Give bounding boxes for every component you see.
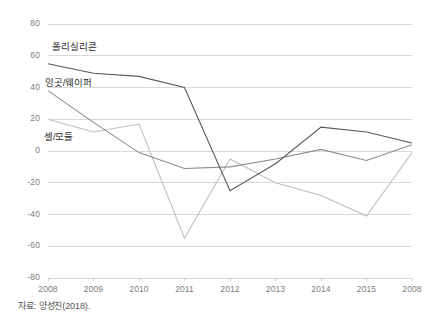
y-tick-label: 20 bbox=[14, 113, 40, 123]
series-line-1 bbox=[48, 64, 412, 191]
x-tick-label: 2014 bbox=[301, 284, 341, 294]
y-tick-label: 80 bbox=[14, 18, 40, 28]
x-tick-label: 2010 bbox=[119, 284, 159, 294]
series-line-3 bbox=[48, 119, 412, 238]
plot-area: 806040200-20-40-60-80 200820092010201120… bbox=[0, 0, 427, 292]
x-tick-label: 2012 bbox=[210, 284, 250, 294]
y-tick-label: -60 bbox=[14, 240, 40, 250]
y-tick-label: -80 bbox=[14, 272, 40, 282]
series-line-2 bbox=[48, 91, 412, 169]
source-note: 자료: 양성진(2018). bbox=[18, 299, 90, 312]
series-label-1: 폴리실리콘 bbox=[52, 39, 97, 53]
y-tick-label: -40 bbox=[14, 209, 40, 219]
x-tick-label: 2008 bbox=[392, 284, 427, 294]
series-label-3: 셀/모듈 bbox=[44, 129, 73, 143]
figure-container: 806040200-20-40-60-80 200820092010201120… bbox=[0, 0, 427, 328]
y-tick-label: 60 bbox=[14, 50, 40, 60]
x-tick-label: 2013 bbox=[256, 284, 296, 294]
y-tick-label: -20 bbox=[14, 177, 40, 187]
gridlines-group bbox=[48, 24, 412, 281]
x-tick-label: 2009 bbox=[74, 284, 114, 294]
x-tick-label: 2011 bbox=[165, 284, 205, 294]
series-label-2: 잉곳/웨이퍼 bbox=[45, 75, 92, 89]
y-tick-label: 40 bbox=[14, 82, 40, 92]
x-tick-label: 2015 bbox=[347, 284, 387, 294]
y-tick-label: 0 bbox=[14, 145, 40, 155]
x-tick-label: 2008 bbox=[28, 284, 68, 294]
